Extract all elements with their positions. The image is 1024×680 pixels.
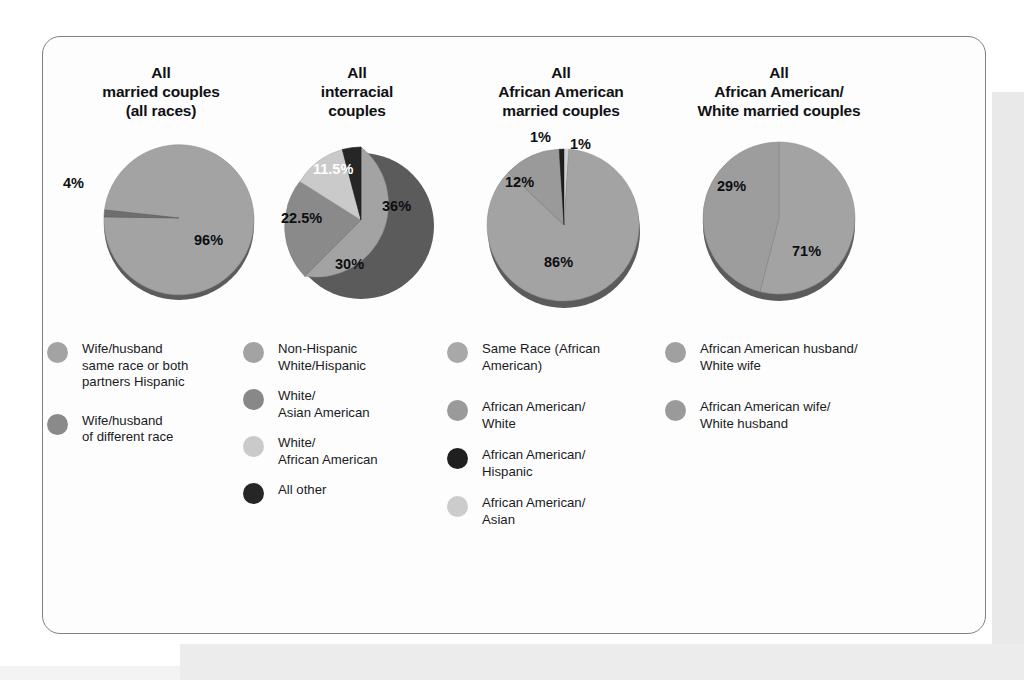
page-scan-shadow-right xyxy=(992,92,1024,680)
legend-color-swatch-icon xyxy=(47,414,68,435)
legend-color-swatch-icon xyxy=(447,400,468,421)
legend-color-swatch-icon xyxy=(243,436,264,457)
legend-item[interactable]: White/ African American xyxy=(243,435,475,468)
legend-item[interactable]: African American/ Asian xyxy=(447,495,679,528)
chart-title: All African American/ White married coup… xyxy=(661,63,897,120)
legend-label: Wife/husband of different race xyxy=(82,413,173,446)
legend-item[interactable]: African American wife/ White husband xyxy=(665,399,897,432)
legend: Non-Hispanic White/Hispanic White/ Asian… xyxy=(239,341,475,504)
pie-slice-96 xyxy=(104,145,254,295)
legend-item[interactable]: Same Race (African American) xyxy=(447,341,679,374)
pie-value-label-4: 4% xyxy=(63,175,84,191)
legend-color-swatch-icon xyxy=(243,389,264,410)
legend-label: African American wife/ White husband xyxy=(700,399,830,432)
pie-area: 86% 12% 1% 1% xyxy=(443,126,679,311)
legend: African American husband/ White wife Afr… xyxy=(661,341,897,432)
pie-value-label-12: 12% xyxy=(505,174,534,190)
legend-label: Wife/husband same race or both partners … xyxy=(82,341,188,391)
legend-item[interactable]: Non-Hispanic White/Hispanic xyxy=(243,341,475,374)
legend-item[interactable]: African American/ White xyxy=(447,399,679,432)
pie-chart-all-african-american-white-married-couples: All African American/ White married coup… xyxy=(661,63,897,623)
pie-value-label-11-5: 11.5% xyxy=(313,161,353,177)
pie-value-label-86: 86% xyxy=(544,254,573,270)
pie-svg xyxy=(443,126,679,311)
legend-label: Same Race (African American) xyxy=(482,341,600,374)
pie-value-label-29: 29% xyxy=(717,178,746,194)
legend-item[interactable]: All other xyxy=(243,482,475,504)
charts-row: All married couples (all races) 96% 4% W… xyxy=(43,37,987,635)
pie-value-label-36: 36% xyxy=(382,198,411,214)
pie-chart-all-african-american-married-couples: All African American married couples 86%… xyxy=(443,63,679,623)
legend-label: African American/ Asian xyxy=(482,495,585,528)
chart-title: All African American married couples xyxy=(443,63,679,120)
legend-label: African American/ Hispanic xyxy=(482,447,585,480)
pie-value-label-1-hispanic: 1% xyxy=(530,129,551,145)
chart-title: All interracial couples xyxy=(239,63,475,120)
page-scan-shadow-corner xyxy=(0,666,180,680)
legend-label: African American/ White xyxy=(482,399,585,432)
pie-chart-all-interracial-couples: All interracial couples 36% 30% 22.5% 11… xyxy=(239,63,475,623)
legend-label: Non-Hispanic White/Hispanic xyxy=(278,341,366,374)
legend-color-swatch-icon xyxy=(243,342,264,363)
pie-value-label-96: 96% xyxy=(194,232,223,248)
legend-label: White/ African American xyxy=(278,435,378,468)
pie-value-label-22-5: 22.5% xyxy=(281,210,322,226)
legend-item[interactable]: African American/ Hispanic xyxy=(447,447,679,480)
pie-value-label-1-asian: 1% xyxy=(570,136,591,152)
legend-item[interactable]: African American husband/ White wife xyxy=(665,341,897,374)
legend-item[interactable]: White/ Asian American xyxy=(243,388,475,421)
legend-color-swatch-icon xyxy=(447,496,468,517)
legend: Same Race (African American) African Ame… xyxy=(443,341,679,528)
legend-label: White/ Asian American xyxy=(278,388,370,421)
legend-color-swatch-icon xyxy=(47,342,68,363)
pie-svg xyxy=(239,126,475,311)
legend-color-swatch-icon xyxy=(665,400,686,421)
legend-color-swatch-icon xyxy=(665,342,686,363)
legend-label: African American husband/ White wife xyxy=(700,341,858,374)
pie-value-label-71: 71% xyxy=(792,243,821,259)
legend-color-swatch-icon xyxy=(447,448,468,469)
pie-value-label-30: 30% xyxy=(335,256,364,272)
legend-color-swatch-icon xyxy=(447,342,468,363)
pie-svg xyxy=(661,126,897,311)
pie-area: 71% 29% xyxy=(661,126,897,311)
page-scan-shadow-bottom xyxy=(180,644,1024,680)
legend-label: All other xyxy=(278,482,326,499)
figure-panel: All married couples (all races) 96% 4% W… xyxy=(42,36,986,634)
pie-area: 36% 30% 22.5% 11.5% xyxy=(239,126,475,311)
legend-color-swatch-icon xyxy=(243,483,264,504)
